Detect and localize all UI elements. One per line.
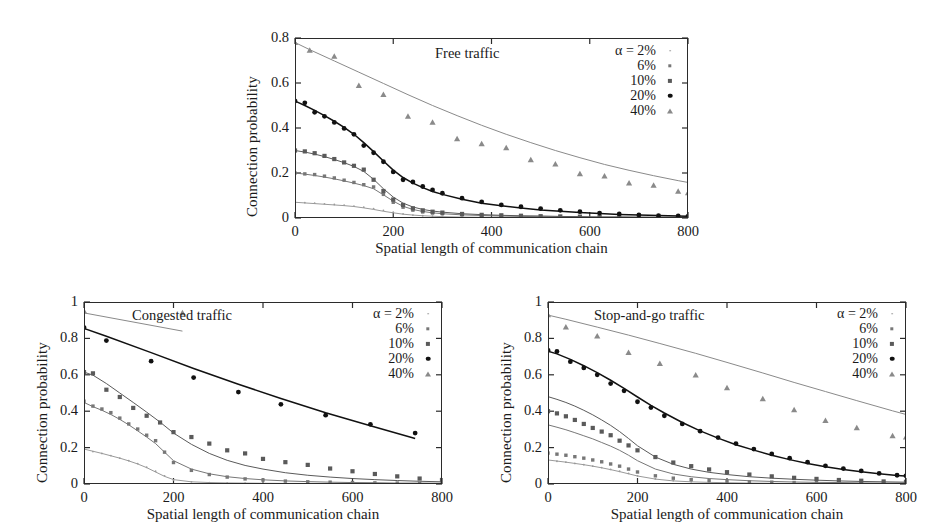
- small-square-marker: [748, 480, 751, 483]
- dot-marker: [333, 204, 335, 206]
- medium-square-marker: [555, 411, 559, 415]
- medium-square-marker: [293, 148, 297, 152]
- dot-marker: [137, 463, 139, 465]
- filled-circle-marker: [608, 381, 613, 386]
- legend-item[interactable]: 6%: [294, 321, 436, 336]
- x-tick-label: 800: [414, 489, 470, 506]
- filled-circle-marker: [352, 132, 357, 137]
- medium-square-marker: [118, 395, 122, 399]
- legend-item[interactable]: 40%: [294, 366, 436, 381]
- medium-square-marker: [582, 422, 586, 426]
- legend-key: [884, 336, 900, 351]
- x-tick-label: 200: [610, 489, 666, 506]
- medium-square-marker: [564, 414, 568, 418]
- small-square-marker: [426, 327, 429, 330]
- legend-item[interactable]: 6%: [758, 321, 900, 336]
- filled-circle-marker: [558, 208, 563, 213]
- y-tick-label: 0.6: [247, 74, 289, 91]
- triangle-marker: [479, 141, 485, 147]
- small-square-marker: [373, 481, 376, 484]
- medium-square-marker: [283, 460, 287, 464]
- legend-item[interactable]: 20%: [758, 351, 900, 366]
- legend-key: [884, 306, 900, 321]
- filled-circle-marker: [368, 422, 373, 427]
- x-axis-label-congested-traffic: Spatial length of communication chain: [72, 506, 454, 523]
- dot-marker: [164, 475, 166, 477]
- legend-item[interactable]: 10%: [758, 336, 900, 351]
- medium-square-marker: [350, 469, 354, 473]
- dot-marker: [412, 214, 414, 216]
- legend-item-label: 20%: [852, 351, 878, 366]
- triangle-marker: [651, 182, 657, 188]
- filled-circle-marker: [332, 120, 337, 125]
- small-square-marker: [328, 480, 331, 483]
- dot-marker: [314, 202, 316, 204]
- medium-square-marker: [499, 213, 503, 217]
- triangle-marker: [657, 360, 663, 366]
- legend-key: [420, 351, 436, 366]
- legend-item[interactable]: 40%: [758, 366, 900, 381]
- medium-square-marker: [539, 214, 543, 218]
- medium-square-marker: [747, 472, 751, 476]
- small-square-marker: [284, 479, 287, 482]
- dot-marker: [547, 459, 549, 461]
- medium-square-marker: [158, 420, 162, 424]
- triangle-marker: [577, 171, 583, 177]
- small-square-marker: [707, 479, 710, 482]
- medium-square-marker: [421, 208, 425, 212]
- small-square-marker: [118, 416, 121, 419]
- legend-item[interactable]: 10%: [294, 336, 436, 351]
- small-square-marker: [591, 458, 594, 461]
- dot-marker: [110, 455, 112, 457]
- filled-circle-marker: [323, 413, 328, 418]
- small-square-marker: [618, 464, 621, 467]
- medium-square-marker: [322, 154, 326, 158]
- filled-circle-marker: [104, 338, 109, 343]
- dot-marker: [343, 204, 345, 206]
- medium-square-marker: [600, 429, 604, 433]
- medium-square-marker: [882, 479, 886, 483]
- legend-key: [662, 103, 678, 118]
- dot-marker: [628, 473, 630, 475]
- dot-marker: [838, 483, 840, 485]
- filled-circle-marker: [668, 93, 673, 98]
- legend-item[interactable]: 20%: [294, 351, 436, 366]
- medium-square-marker: [145, 414, 149, 418]
- filled-circle-marker: [841, 466, 846, 471]
- legend-item[interactable]: α = 2%: [294, 306, 436, 321]
- legend-key: [420, 336, 436, 351]
- dot-marker: [363, 206, 365, 208]
- dot-marker: [92, 451, 94, 453]
- medium-square-marker: [573, 418, 577, 422]
- triangle-marker: [545, 312, 551, 318]
- small-square-marker: [770, 480, 773, 483]
- dot-marker: [637, 475, 639, 477]
- dot-marker: [383, 209, 385, 211]
- dot-marker: [891, 313, 893, 315]
- triangle-marker: [594, 333, 600, 339]
- y-tick-label: 1: [36, 293, 78, 310]
- legend-item[interactable]: 6%: [530, 58, 678, 73]
- legend-item[interactable]: 20%: [530, 88, 678, 103]
- triangle-marker: [760, 396, 766, 402]
- dot-marker: [155, 470, 157, 472]
- filled-circle-marker: [805, 460, 810, 465]
- legend-item-label: 10%: [852, 336, 878, 351]
- legend-item[interactable]: 40%: [530, 103, 678, 118]
- legend-item[interactable]: α = 2%: [758, 306, 900, 321]
- filled-circle-marker: [890, 356, 895, 361]
- triangle-marker: [889, 371, 895, 376]
- medium-square-marker: [401, 203, 405, 207]
- y-tick-label: 0.6: [36, 366, 78, 383]
- medium-square-marker: [82, 370, 86, 374]
- legend-item[interactable]: α = 2%: [530, 43, 678, 58]
- small-square-marker: [672, 476, 675, 479]
- small-square-marker: [100, 407, 103, 410]
- x-tick-label: 400: [235, 489, 291, 506]
- triangle-marker: [454, 136, 460, 142]
- plot-title-congested-traffic: Congested traffic: [132, 307, 232, 324]
- medium-square-marker: [261, 457, 265, 461]
- triangle-marker: [724, 385, 730, 391]
- legend-item[interactable]: 10%: [530, 73, 678, 88]
- medium-square-marker: [890, 341, 894, 345]
